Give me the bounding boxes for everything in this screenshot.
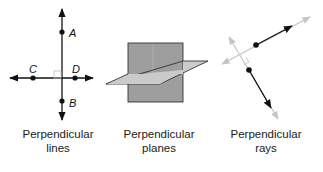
caption-lines-line1: Perpendicular xyxy=(8,127,108,141)
perpendicular-lines-figure: A B C D xyxy=(10,9,93,120)
label-d: D xyxy=(72,63,80,75)
caption-perpendicular-lines: Perpendicular lines xyxy=(8,127,108,155)
ray1-endpoint xyxy=(253,42,259,48)
perpendicular-planes-figure xyxy=(106,43,208,102)
point-b xyxy=(59,98,64,103)
caption-planes-line2: planes xyxy=(109,141,209,155)
caption-perpendicular-rays: Perpendicular rays xyxy=(216,127,316,155)
right-angle-marker xyxy=(54,71,61,78)
caption-perpendicular-planes: Perpendicular planes xyxy=(109,127,209,155)
ray-1 xyxy=(256,26,292,45)
point-a xyxy=(59,29,64,34)
ray-2 xyxy=(249,70,271,108)
point-c xyxy=(30,75,35,80)
label-b: B xyxy=(69,97,76,109)
caption-rays-line2: rays xyxy=(216,141,316,155)
ray2-endpoint xyxy=(246,67,252,73)
caption-lines-line2: lines xyxy=(8,141,108,155)
caption-planes-line1: Perpendicular xyxy=(109,127,209,141)
label-c: C xyxy=(29,63,37,75)
label-a: A xyxy=(68,27,76,39)
perpendicular-rays-figure xyxy=(222,17,310,119)
point-d xyxy=(72,75,77,80)
ray1-gray-extension xyxy=(222,17,310,64)
caption-rays-line1: Perpendicular xyxy=(216,127,316,141)
